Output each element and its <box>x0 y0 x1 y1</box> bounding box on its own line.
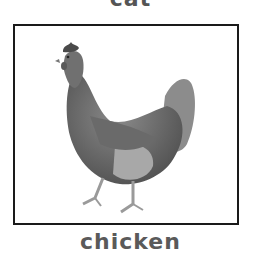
previous-card-label: cat <box>0 0 261 11</box>
card-label: chicken <box>0 229 261 254</box>
image-frame <box>13 24 239 225</box>
chicken-image <box>15 26 237 223</box>
